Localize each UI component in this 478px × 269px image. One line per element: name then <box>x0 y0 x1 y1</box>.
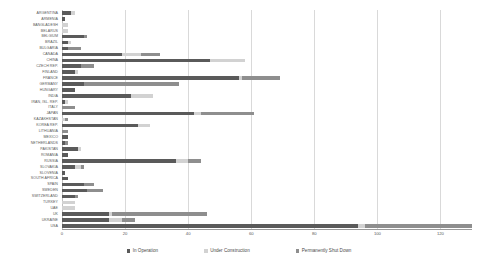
bar-segment-op <box>62 88 75 92</box>
bar-segment-sd <box>141 53 160 57</box>
bar-row <box>62 70 78 74</box>
bar-row <box>62 224 472 228</box>
bar-row <box>62 53 160 57</box>
bar-segment-op <box>62 159 176 163</box>
bar-segment-op <box>62 218 109 222</box>
bar-segment-op <box>62 17 65 21</box>
legend-label: Permanently Shut Down <box>302 248 352 254</box>
bar-segment-op <box>62 189 87 193</box>
bar-row <box>62 206 75 210</box>
bar-row <box>62 59 245 63</box>
bar-segment-sd <box>84 183 93 187</box>
category-label: BELARUS <box>0 29 58 33</box>
bar-segment-op <box>62 224 358 228</box>
bar-segment-sd <box>75 195 78 199</box>
bar-segment-sd <box>188 159 201 163</box>
category-label: ITALY <box>0 105 58 109</box>
bar-row <box>62 47 81 51</box>
legend-swatch-uc <box>204 249 208 253</box>
bar-row <box>62 159 201 163</box>
bar-row <box>62 124 150 128</box>
bar-segment-uc <box>71 11 74 15</box>
bar-row <box>62 94 153 98</box>
category-label: UAE <box>0 206 58 210</box>
legend-label: Under Construction <box>210 248 250 254</box>
bar-row <box>62 135 68 139</box>
bar-row <box>62 130 68 134</box>
bar-segment-op <box>62 94 131 98</box>
bar-segment-sd <box>87 189 103 193</box>
x-tick-label: 60 <box>249 231 254 237</box>
bar-segment-op <box>62 212 109 216</box>
category-label: KOREA REP. <box>0 123 58 127</box>
bar-row <box>62 165 84 169</box>
bar-segment-uc <box>62 29 68 33</box>
chart-legend: In OperationUnder ConstructionPermanentl… <box>0 248 478 254</box>
bar-segment-uc <box>62 23 68 27</box>
bar-segment-op <box>62 64 81 68</box>
bar-segment-sd <box>242 76 280 80</box>
bar-row <box>62 147 81 151</box>
legend-item[interactable]: In Operation <box>127 248 158 254</box>
category-label: BELGIUM <box>0 34 58 38</box>
category-label: FRANCE <box>0 76 58 80</box>
bar-row <box>62 112 254 116</box>
bar-segment-op <box>62 153 68 157</box>
bar-segment-op <box>62 177 68 181</box>
bar-segment-uc <box>109 218 122 222</box>
category-label: MEXICO <box>0 135 58 139</box>
bar-segment-uc <box>62 206 75 210</box>
bar-row <box>62 23 68 27</box>
bar-segment-op <box>62 70 75 74</box>
bar-segment-uc <box>78 147 81 151</box>
bar-segment-sd <box>62 106 75 110</box>
bar-segment-sd <box>112 212 207 216</box>
legend-label: In Operation <box>133 248 158 254</box>
legend-item[interactable]: Permanently Shut Down <box>296 248 352 254</box>
bar-row <box>62 212 207 216</box>
category-label: ARMENIA <box>0 17 58 21</box>
legend-swatch-sd <box>296 249 300 253</box>
bar-segment-uc <box>210 59 245 63</box>
bar-row <box>62 141 68 145</box>
x-tick-label: 20 <box>123 231 128 237</box>
bar-row <box>62 118 68 122</box>
x-tick-label: 120 <box>437 231 444 237</box>
bar-segment-sd <box>84 82 179 86</box>
bar-segment-sd <box>65 141 68 145</box>
y-axis-category-labels: ARGENTINAARMENIABANGLADESHBELARUSBELGIUM… <box>0 10 58 229</box>
category-label: SWITZERLAND <box>0 194 58 198</box>
category-label: KAZAKHSTAN <box>0 117 58 121</box>
category-label: CHINA <box>0 58 58 62</box>
bar-segment-uc <box>176 159 189 163</box>
bar-row <box>62 153 68 157</box>
category-label: SOUTH AFRICA <box>0 176 58 180</box>
category-label: RUSSIA <box>0 159 58 163</box>
category-label: BANGLADESH <box>0 23 58 27</box>
category-label: SPAIN <box>0 182 58 186</box>
category-label: USA <box>0 224 58 228</box>
category-label: CZECH REP. <box>0 64 58 68</box>
x-axis-line <box>62 229 472 230</box>
category-label: JAPAN <box>0 111 58 115</box>
bar-row <box>62 106 75 110</box>
x-axis-tick-labels: 020406080100120 <box>62 231 472 241</box>
bar-segment-op <box>62 135 68 139</box>
bar-segment-sd <box>81 64 94 68</box>
bar-segment-op <box>62 183 84 187</box>
bar-segment-uc <box>122 53 141 57</box>
bar-segment-uc <box>62 201 75 205</box>
bar-segment-sd <box>84 35 87 39</box>
category-label: NETHERLANDS <box>0 141 58 145</box>
bar-row <box>62 171 65 175</box>
legend-item[interactable]: Under Construction <box>204 248 250 254</box>
category-label: CANADA <box>0 52 58 56</box>
category-label: SLOVENIA <box>0 171 58 175</box>
bar-segment-op <box>62 147 78 151</box>
legend-swatch-op <box>127 249 131 253</box>
x-tick-label: 0 <box>61 231 63 237</box>
bar-segment-op <box>62 35 84 39</box>
bar-rows <box>62 10 472 229</box>
bar-segment-uc <box>68 41 71 45</box>
bar-row <box>62 189 103 193</box>
